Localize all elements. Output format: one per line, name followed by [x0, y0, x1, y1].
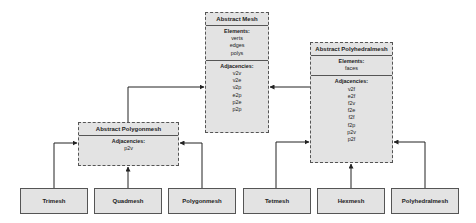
adjacencies-label: Adjacencies: — [206, 63, 268, 70]
quadmesh-box: Quadmesh — [94, 188, 162, 214]
abstract-polyhedralmesh-box: Abstract Polyhedralmesh Elements: faces … — [310, 42, 393, 163]
abstract-polygonmesh-title: Abstract Polygonmesh — [79, 123, 178, 136]
adjacency-item: p2v — [79, 145, 178, 152]
polyhedralmesh-box: Polyhedralmesh — [391, 188, 459, 214]
abstract-mesh-box: Abstract Mesh Elements: verts edges poly… — [205, 12, 269, 133]
polygonmesh-box: Polygonmesh — [168, 188, 236, 214]
adjacency-item: p2f — [311, 136, 392, 143]
element-item: verts — [206, 35, 268, 42]
elements-label: Elements: — [311, 58, 392, 65]
adjacency-item: v2v — [206, 70, 268, 77]
abstract-polygonmesh-box: Abstract Polygonmesh Adjacencies: p2v — [78, 122, 179, 166]
element-item: polys — [206, 50, 268, 57]
element-item: faces — [311, 65, 392, 72]
abstract-polygonmesh-adjacencies: Adjacencies: p2v — [79, 136, 178, 155]
abstract-polyhedralmesh-title: Abstract Polyhedralmesh — [311, 43, 392, 56]
abstract-mesh-adjacencies: Adjacencies: v2v v2e v2p e2p p2e p2p — [206, 61, 268, 116]
abstract-polyhedralmesh-adjacencies: Adjacencies: v2f e2f f2v f2e f2f f2p p2v… — [311, 76, 392, 146]
elements-label: Elements: — [206, 28, 268, 35]
adjacencies-label: Adjacencies: — [311, 78, 392, 85]
adjacency-item: e2f — [311, 93, 392, 100]
adjacency-item: v2e — [206, 77, 268, 84]
adjacency-item: p2p — [206, 106, 268, 113]
trimesh-box: Trimesh — [20, 188, 88, 214]
adjacency-item: f2v — [311, 100, 392, 107]
hexmesh-box: Hexmesh — [317, 188, 385, 214]
adjacency-item: e2p — [206, 92, 268, 99]
adjacency-item: v2p — [206, 84, 268, 91]
adjacencies-label: Adjacencies: — [79, 138, 178, 145]
adjacency-item: f2e — [311, 107, 392, 114]
tetmesh-box: Tetmesh — [243, 188, 311, 214]
element-item: edges — [206, 42, 268, 49]
abstract-mesh-elements: Elements: verts edges polys — [206, 26, 268, 61]
abstract-mesh-title: Abstract Mesh — [206, 13, 268, 26]
abstract-polyhedralmesh-elements: Elements: faces — [311, 56, 392, 76]
adjacency-item: v2f — [311, 86, 392, 93]
adjacency-item: p2v — [311, 129, 392, 136]
adjacency-item: p2e — [206, 99, 268, 106]
adjacency-item: f2p — [311, 122, 392, 129]
adjacency-item: f2f — [311, 114, 392, 121]
